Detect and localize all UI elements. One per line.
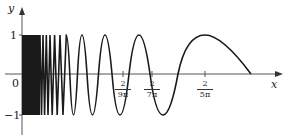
fraction-numerator: 2	[197, 80, 213, 90]
y-axis-label: y	[8, 3, 14, 14]
fraction-denominator: 7π	[144, 90, 160, 99]
chart: y x 1 −1 0 2 9π 2 7π 2 5π	[0, 0, 284, 137]
y-tick-label-1: 1	[10, 30, 17, 41]
x-tick-label-2-7pi: 2 7π	[144, 80, 160, 99]
origin-label: 0	[12, 78, 19, 89]
sin-inverse-x-curve	[40, 35, 251, 115]
fraction-denominator: 5π	[197, 90, 213, 99]
dense-oscillation	[22, 35, 40, 115]
fraction-denominator: 9π	[115, 90, 131, 99]
fraction-numerator: 2	[144, 80, 160, 90]
y-axis-arrow-icon	[19, 7, 25, 15]
x-tick-label-2-9pi: 2 9π	[115, 80, 131, 99]
plot-area	[0, 0, 284, 137]
x-tick-label-2-5pi: 2 5π	[197, 80, 213, 99]
x-axis-arrow-icon	[275, 71, 283, 77]
x-axis-label: x	[271, 79, 277, 90]
y-tick-label-neg1: −1	[4, 110, 20, 121]
fraction-numerator: 2	[115, 80, 131, 90]
